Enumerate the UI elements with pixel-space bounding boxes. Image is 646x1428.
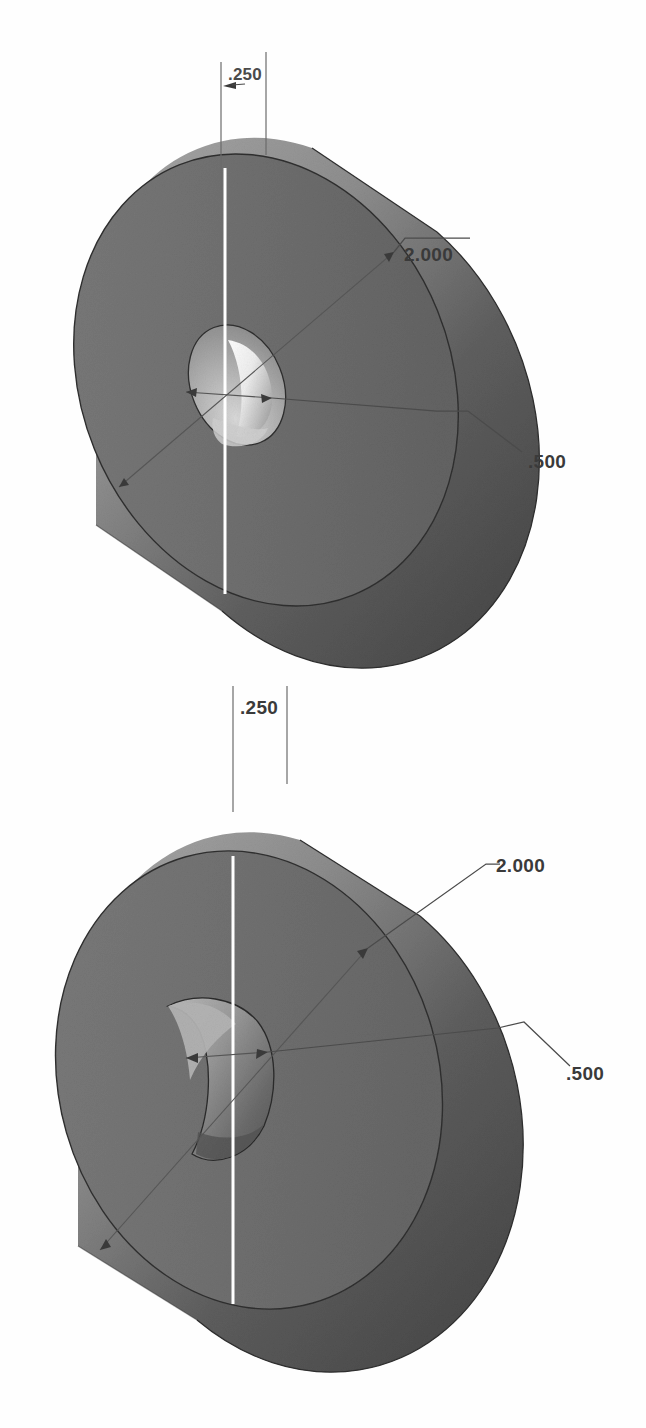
dimension-label-500-top: .500 xyxy=(528,451,566,472)
dimension-label-250-bottom: .250 xyxy=(240,697,278,718)
view-top-graphic: .250 2.000 .500 xyxy=(0,0,646,714)
view-bottom-graphic: .250 2.000 .500 xyxy=(0,680,646,1428)
isometric-view-with-through-hole: .250 2.000 .500 xyxy=(0,0,646,714)
dimension-label-250-top: .250 xyxy=(228,65,262,84)
dimension-label-2000-bottom: 2.000 xyxy=(496,855,545,876)
dimension-label-2000-top: 2.000 xyxy=(404,244,453,265)
dimension-thickness-bottom-view: .250 xyxy=(233,686,287,812)
dimension-label-500-bottom: .500 xyxy=(566,1063,604,1084)
isometric-view-with-raised-boss: .250 2.000 .500 xyxy=(0,680,646,1428)
drawing-sheet: .250 2.000 .500 xyxy=(0,0,646,1428)
